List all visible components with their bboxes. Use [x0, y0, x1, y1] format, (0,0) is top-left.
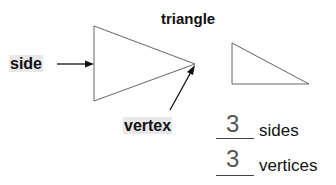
side-label: side [9, 55, 43, 72]
large-triangle [94, 26, 195, 101]
vertex-arrow [170, 72, 191, 110]
sides-answer-line [216, 138, 254, 139]
small-triangle [232, 43, 309, 84]
vertices-count: 3 [226, 145, 239, 173]
sides-count: 3 [226, 110, 239, 138]
sides-label: sides [259, 122, 299, 140]
vertex-label: vertex [123, 117, 172, 134]
vertices-answer-line [216, 175, 254, 176]
side-arrowhead-icon [85, 61, 94, 68]
vertices-label: vertices [259, 157, 318, 175]
